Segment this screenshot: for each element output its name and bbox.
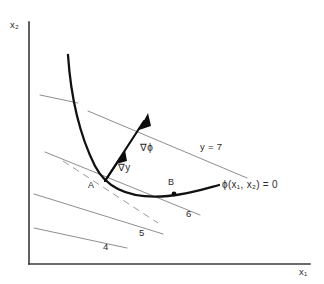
gradient-phi-head	[139, 113, 151, 130]
axes-group	[29, 22, 310, 264]
contour-label-5: 5	[139, 227, 145, 238]
y-axis-label: x₂	[10, 19, 19, 30]
contour-label-4: 4	[103, 241, 109, 252]
gradient-y-label: ∇y	[118, 162, 131, 173]
constraint-equation-label: ϕ(x₁, x₂) = 0	[222, 179, 278, 190]
x-axis-label: x₁	[299, 266, 308, 277]
point-label-a: A	[88, 180, 94, 190]
gradient-phi-label: ∇ϕ	[140, 142, 153, 153]
contour-label-7: y = 7	[200, 141, 222, 152]
point-marker-b	[172, 192, 177, 197]
contour-label-6: 6	[186, 208, 192, 219]
contour-lines-group	[34, 95, 247, 248]
figure-canvas	[0, 0, 324, 284]
lagrange-multiplier-figure: x₂ x₁ A B ∇ϕ ∇y y = 7 ϕ(x₁, x₂) = 0 4 5 …	[0, 0, 324, 284]
point-label-b: B	[168, 177, 174, 187]
contour-line-7	[88, 111, 247, 178]
contour-line-4	[34, 228, 127, 248]
